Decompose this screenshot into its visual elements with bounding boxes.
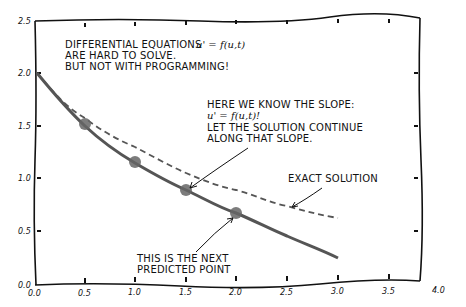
svg-text:u' = f(u,t): u' = f(u,t) xyxy=(196,39,245,50)
svg-text:2.5: 2.5 xyxy=(280,288,293,297)
xkcd-chart: 0.0 0.5 1.0 1.5 2.0 2.5 3.0 3.5 4.0 0.0 … xyxy=(0,0,466,307)
point-marker xyxy=(79,118,91,130)
svg-text:DIFFERENTIAL EQUATIONS: DIFFERENTIAL EQUATIONS xyxy=(65,39,202,50)
svg-text:3.5: 3.5 xyxy=(382,287,395,296)
svg-text:2.0: 2.0 xyxy=(18,69,31,78)
svg-text:HERE WE KNOW THE SLOPE:: HERE WE KNOW THE SLOPE: xyxy=(207,99,355,110)
svg-text:1.0: 1.0 xyxy=(128,288,141,297)
point-marker xyxy=(129,156,141,168)
next-point-arrow xyxy=(196,218,233,252)
svg-text:3.0: 3.0 xyxy=(331,287,344,296)
y-tick-labels: 0.0 0.5 1.0 1.5 2.0 2.5 xyxy=(18,17,31,290)
svg-text:ARE HARD TO SOLVE.: ARE HARD TO SOLVE. xyxy=(65,50,176,61)
exact-annotation: EXACT SOLUTION xyxy=(288,173,378,207)
svg-text:1.5: 1.5 xyxy=(18,122,31,131)
svg-text:ALONG THAT SLOPE.: ALONG THAT SLOPE. xyxy=(207,133,313,144)
y-tick-marks xyxy=(37,73,418,231)
svg-text:0.0: 0.0 xyxy=(18,281,31,290)
exact-arrow xyxy=(292,188,322,207)
svg-text:0.0: 0.0 xyxy=(28,289,41,298)
slope-arrow xyxy=(190,148,248,188)
next-point-annotation: THIS IS THE NEXT PREDICTED POINT xyxy=(136,218,233,275)
x-tick-labels: 0.0 0.5 1.0 1.5 2.0 2.5 3.0 3.5 4.0 xyxy=(28,286,445,298)
svg-text:EXACT SOLUTION: EXACT SOLUTION xyxy=(288,173,378,184)
svg-text:BUT NOT WITH PROGRAMMING!: BUT NOT WITH PROGRAMMING! xyxy=(65,61,229,72)
svg-text:1.5: 1.5 xyxy=(179,288,192,297)
svg-text:PREDICTED POINT: PREDICTED POINT xyxy=(137,264,231,275)
svg-text:1.0: 1.0 xyxy=(18,174,31,183)
point-marker xyxy=(180,184,192,196)
intro-annotation: DIFFERENTIAL EQUATIONS u' = f(u,t) ARE H… xyxy=(65,39,245,72)
svg-text:2.5: 2.5 xyxy=(18,17,31,26)
svg-text:4.0: 4.0 xyxy=(432,286,445,295)
svg-text:LET THE SOLUTION CONTINUE: LET THE SOLUTION CONTINUE xyxy=(207,122,363,133)
svg-text:u' = f(u,t)!: u' = f(u,t)! xyxy=(207,110,260,121)
svg-text:0.5: 0.5 xyxy=(78,289,91,298)
svg-text:2.0: 2.0 xyxy=(229,288,242,297)
exact-solution-line xyxy=(37,73,338,218)
svg-text:THIS IS THE NEXT: THIS IS THE NEXT xyxy=(136,253,229,264)
svg-text:0.5: 0.5 xyxy=(18,227,31,236)
point-marker xyxy=(230,207,242,219)
